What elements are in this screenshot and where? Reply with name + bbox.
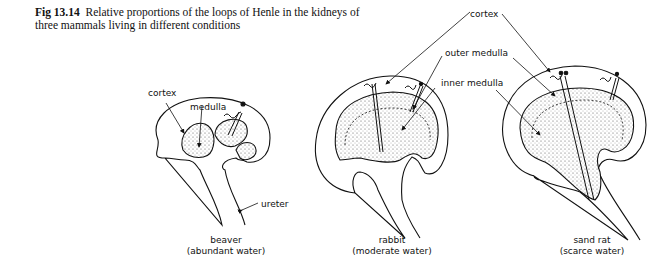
beaver-kidney <box>156 98 270 225</box>
label-outer-medulla: outer medulla <box>445 48 508 58</box>
animal-sand-rat: sand rat <box>573 235 610 245</box>
label-cortex-right: cortex <box>470 9 498 19</box>
caption-rabbit: rabbit (moderate water) <box>327 235 457 257</box>
label-cortex-beaver: cortex <box>148 88 176 98</box>
kidney-diagram <box>0 0 669 258</box>
sand-rat-kidney <box>503 66 646 240</box>
condition-sand-rat: (scarce water) <box>560 246 625 256</box>
condition-beaver: (abundant water) <box>187 246 266 256</box>
rabbit-kidney <box>315 76 448 238</box>
label-medulla-beaver: medulla <box>190 102 226 112</box>
condition-rabbit: (moderate water) <box>352 246 431 256</box>
caption-beaver: beaver (abundant water) <box>161 235 291 257</box>
caption-sand-rat: sand rat (scarce water) <box>527 235 657 257</box>
animal-beaver: beaver <box>210 235 241 245</box>
animal-rabbit: rabbit <box>379 235 406 245</box>
label-ureter: ureter <box>261 199 289 209</box>
label-inner-medulla: inner medulla <box>441 78 503 88</box>
